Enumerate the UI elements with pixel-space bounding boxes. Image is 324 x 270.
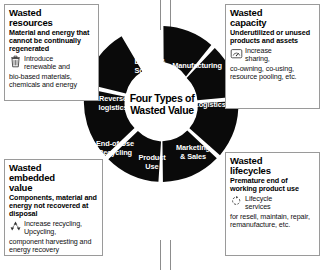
panel-wasted-resources: Wasted resources Material and energy tha… xyxy=(4,4,99,101)
segment-label-end-of-use-recycling-2: Recycling xyxy=(98,148,133,157)
bullet-rest: sharing, xyxy=(245,54,270,63)
panel-subtitle-wasted-resources: Material and energy that cannot be conti… xyxy=(9,29,94,53)
panel-bullet-tail-wasted-capacity: co-owning, co-using, resource pooling, e… xyxy=(230,65,315,81)
infographic-canvas: Design & Sourcing Manufacturing Logistic… xyxy=(0,0,324,270)
segment-label-product-use-2: Use xyxy=(145,162,158,171)
panel-bullet-text-head: Introduce renewable and xyxy=(24,55,70,71)
gauge-icon xyxy=(230,47,243,60)
panel-title-line2: capacity xyxy=(230,17,266,28)
panel-bullet-text-head: Increase recycling, Upcycling, xyxy=(24,220,82,236)
panel-subtitle-wasted-lifecycles: Premature end of working product use xyxy=(230,177,315,193)
panel-bullet-tail-wasted-lifecycles: for resell, maintain, repair, remanufact… xyxy=(230,213,315,229)
lifecycle-loop-icon xyxy=(230,195,243,208)
hub-title-line2: Wasted Value xyxy=(130,104,194,116)
panel-subtitle-wasted-embedded-value: Components, material and energy not reco… xyxy=(9,194,98,218)
panel-bullet-wasted-resources: Introduce renewable and xyxy=(9,55,94,71)
panel-bullet-wasted-lifecycles: Lifecycle services xyxy=(230,195,315,211)
connector-bottom-left xyxy=(160,240,161,270)
panel-title-wasted-resources: Wasted resources xyxy=(9,8,94,28)
trash-bin-icon xyxy=(9,55,22,68)
segment-label-logistics: Logistics xyxy=(194,100,226,109)
segment-label-manufacturing: Manufacturing xyxy=(172,61,222,70)
connector-bottom-right xyxy=(170,240,171,270)
segment-label-marketing-sales-2: & Sales xyxy=(180,152,206,161)
panel-title-wasted-capacity: Wasted capacity xyxy=(230,8,315,28)
hub-title: Four Types of Wasted Value xyxy=(130,92,196,116)
panel-title-wasted-embedded-value: Wasted embedded value xyxy=(9,163,98,193)
hub-title-line1: Four Types of xyxy=(130,92,196,104)
panel-wasted-lifecycles: Wasted lifecycles Premature end of worki… xyxy=(225,152,320,256)
panel-bullet-wasted-capacity: Increase sharing, xyxy=(230,47,315,63)
panel-title-wasted-lifecycles: Wasted lifecycles xyxy=(230,156,315,176)
panel-bullet-text-head: Lifecycle services xyxy=(245,195,272,211)
panel-title-line2: lifecycles xyxy=(230,165,271,176)
panel-bullet-tail-wasted-embedded-value: component harvesting and energy recovery xyxy=(9,238,98,254)
panel-wasted-embedded-value: Wasted embedded value Components, materi… xyxy=(4,159,103,256)
panel-bullet-text-head: Increase sharing, xyxy=(245,47,272,63)
panel-bullet-tail-wasted-resources: bio-based materials, chemicals and energ… xyxy=(9,73,94,89)
segment-label-reverse-logistics-2: logistics xyxy=(98,103,127,112)
bullet-rest: services xyxy=(245,202,271,211)
panel-title-line3: value xyxy=(9,182,32,193)
bullet-rest: Upcycling, xyxy=(24,227,56,236)
panel-subtitle-wasted-capacity: Underutilized or unused products and ass… xyxy=(230,29,315,45)
recycling-arrows-icon xyxy=(9,220,22,233)
panel-title-line2: resources xyxy=(9,17,53,28)
bullet-rest: renewable and xyxy=(24,62,70,71)
panel-bullet-wasted-embedded-value: Increase recycling, Upcycling, xyxy=(9,220,98,236)
segment-label-design-sourcing-2: Sourcing xyxy=(134,66,166,75)
panel-wasted-capacity: Wasted capacity Underutilized or unused … xyxy=(225,4,320,109)
wasted-value-wheel: Design & Sourcing Manufacturing Logistic… xyxy=(82,24,242,184)
